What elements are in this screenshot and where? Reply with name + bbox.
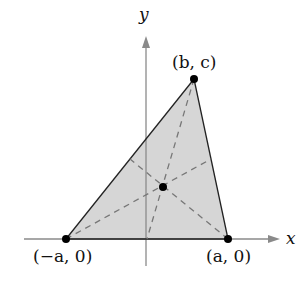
x-axis-arrow-icon: [268, 235, 280, 243]
vertex-right-point: [224, 235, 232, 243]
vertex-left-label: (−a, 0): [33, 246, 92, 266]
centroid-point: [159, 183, 167, 191]
vertex-left-point: [62, 235, 70, 243]
triangle-diagram: y x (b, c) (−a, 0) (a, 0): [0, 0, 304, 287]
x-axis-label: x: [286, 228, 296, 248]
vertex-right-label: (a, 0): [206, 246, 251, 266]
triangle: [66, 79, 228, 239]
diagram-svg: [0, 0, 304, 287]
vertex-top-label: (b, c): [172, 52, 216, 72]
y-axis-label: y: [139, 4, 149, 24]
vertex-top-point: [190, 75, 198, 83]
y-axis-arrow-icon: [142, 36, 150, 48]
